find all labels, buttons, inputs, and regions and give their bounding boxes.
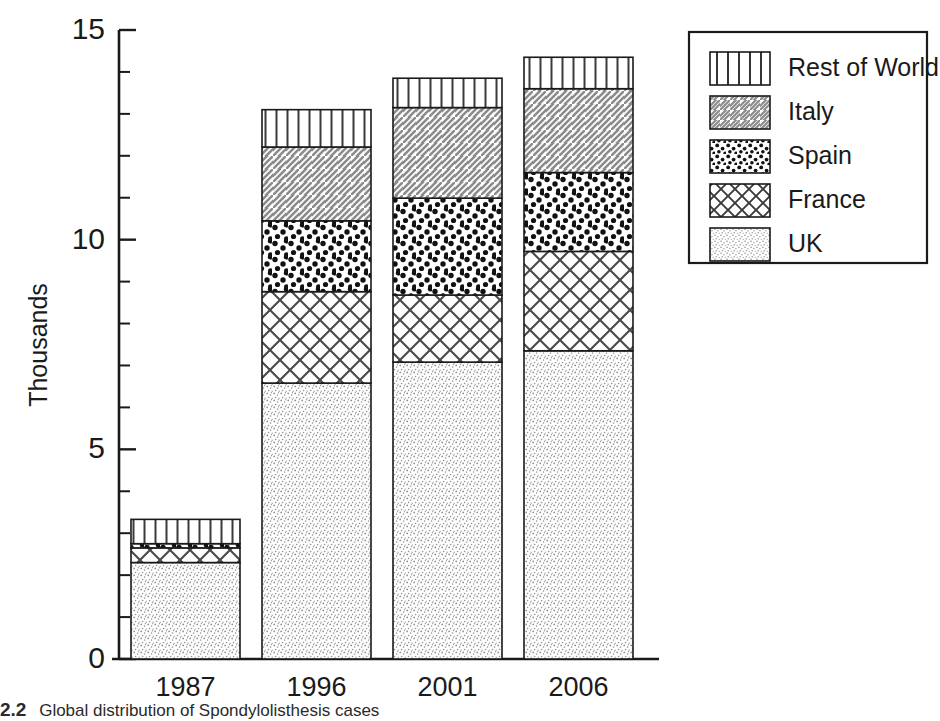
x-tick-label-2001: 2001: [417, 672, 477, 702]
y-axis: 051015 Thousands: [24, 12, 136, 674]
legend-swatch-rest-of-world[interactable]: [710, 52, 770, 85]
legend-label-france: France: [788, 185, 866, 213]
x-tick-label-1996: 1996: [286, 672, 346, 702]
bar-segment-2001-spain[interactable]: [393, 198, 502, 295]
bar-segment-2001-rest-of-world[interactable]: [393, 78, 502, 107]
y-tick-label-10: 10: [72, 222, 105, 255]
legend-swatch-spain[interactable]: [710, 140, 770, 173]
bar-segment-1987-france[interactable]: [131, 548, 240, 563]
legend-label-italy: Italy: [788, 97, 834, 125]
bar-segment-1996-spain[interactable]: [262, 221, 371, 292]
legend: Rest of WorldItalySpainFranceUK: [689, 32, 939, 263]
legend-label-uk: UK: [788, 229, 823, 257]
bar-segment-2006-rest-of-world[interactable]: [524, 57, 633, 88]
caption-text: Global distribution of Spondylolisthesis…: [39, 701, 379, 720]
figure-caption: 2.2 Global distribution of Spondylolisth…: [0, 699, 379, 720]
y-axis-title: Thousands: [24, 283, 52, 407]
bar-segment-2001-italy[interactable]: [393, 108, 502, 199]
figure-container: 051015 Thousands 1987199620012006 Rest o…: [0, 0, 940, 721]
bar-segment-2006-spain[interactable]: [524, 173, 633, 252]
bar-segment-1987-rest-of-world[interactable]: [131, 519, 240, 543]
y-axis-minor-ticks: [119, 72, 130, 617]
legend-swatch-france[interactable]: [710, 184, 770, 217]
x-tick-label-2006: 2006: [548, 672, 608, 702]
bar-segment-2001-france[interactable]: [393, 295, 502, 362]
legend-swatch-uk[interactable]: [710, 228, 770, 261]
caption-number: 2.2: [0, 699, 26, 720]
bar-2006[interactable]: [524, 57, 633, 659]
x-axis-tick-labels: 1987199620012006: [155, 672, 608, 702]
bar-segment-1996-uk[interactable]: [262, 383, 371, 659]
bar-2001[interactable]: [393, 78, 502, 659]
bar-segment-1996-france[interactable]: [262, 292, 371, 383]
stacked-bar-chart: 051015 Thousands 1987199620012006 Rest o…: [0, 0, 940, 721]
bar-segment-1987-uk[interactable]: [131, 563, 240, 659]
bar-1996[interactable]: [262, 110, 371, 659]
bars-group: [131, 57, 633, 659]
y-tick-label-0: 0: [88, 641, 105, 674]
x-axis: 1987199620012006: [112, 659, 659, 702]
legend-label-rest-of-world: Rest of World: [788, 53, 939, 81]
bar-segment-2006-france[interactable]: [524, 251, 633, 350]
svg-text:2.2 Global distributio: 2.2 Global distribution of Spondylolisth…: [0, 699, 379, 720]
y-axis-tick-labels: 051015: [72, 12, 105, 674]
bar-segment-2006-uk[interactable]: [524, 351, 633, 659]
x-tick-label-1987: 1987: [155, 672, 215, 702]
y-tick-label-15: 15: [72, 12, 105, 45]
bar-segment-1996-italy[interactable]: [262, 147, 371, 221]
bar-1987[interactable]: [131, 519, 240, 659]
y-tick-label-5: 5: [88, 431, 105, 464]
bar-segment-2006-italy[interactable]: [524, 89, 633, 173]
bar-segment-2001-uk[interactable]: [393, 362, 502, 659]
bar-segment-1996-rest-of-world[interactable]: [262, 110, 371, 147]
legend-swatch-italy[interactable]: [710, 96, 770, 129]
legend-label-spain: Spain: [788, 141, 852, 169]
